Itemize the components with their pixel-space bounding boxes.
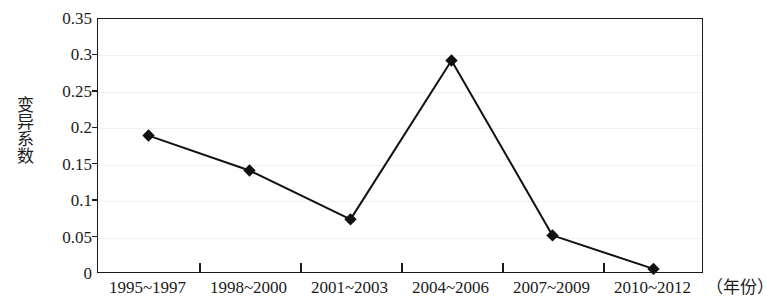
x-axis-tick-mark <box>401 263 403 272</box>
data-point-marker <box>647 263 659 275</box>
data-point-marker <box>546 229 558 241</box>
y-axis-tick-label: 0.35 <box>36 10 92 27</box>
y-axis-tick-label: 0 <box>36 265 92 282</box>
x-axis-tick-mark <box>300 263 302 272</box>
y-axis-tick-label: 0.2 <box>36 119 92 136</box>
y-axis-tick-label: 0.1 <box>36 192 92 209</box>
x-axis-tick-mark <box>603 263 605 272</box>
chart-container: 变异系数 00.050.10.150.20.250.30.35 1995~199… <box>0 0 766 304</box>
y-axis-tick-label: 0.05 <box>36 228 92 245</box>
series-line <box>149 61 654 269</box>
x-axis-tick-label: 1995~1997 <box>109 277 186 299</box>
x-axis-tick-labels: 1995~19971998~20002001~20032004~20062007… <box>97 277 703 303</box>
data-series-line <box>98 19 704 274</box>
x-axis-tick-label: 2001~2003 <box>311 277 388 299</box>
y-axis-title: 变异系数 <box>2 96 32 164</box>
x-axis-tick-mark <box>199 263 201 272</box>
data-point-marker <box>142 129 154 141</box>
x-axis-title: （年份） <box>706 277 766 299</box>
plot-area <box>97 18 703 273</box>
y-axis-tick-label: 0.3 <box>36 46 92 63</box>
data-point-marker <box>445 54 457 66</box>
x-axis-tick-mark <box>502 263 504 272</box>
y-axis-tick-label: 0.25 <box>36 82 92 99</box>
data-point-marker <box>344 213 356 225</box>
x-axis-tick-label: 1998~2000 <box>210 277 287 299</box>
data-point-marker <box>243 164 255 176</box>
x-axis-tick-label: 2004~2006 <box>412 277 489 299</box>
y-axis-tick-labels: 00.050.10.150.20.250.30.35 <box>32 0 92 304</box>
y-axis-tick-label: 0.15 <box>36 155 92 172</box>
x-axis-tick-label: 2010~2012 <box>614 277 691 299</box>
x-axis-tick-label: 2007~2009 <box>513 277 590 299</box>
